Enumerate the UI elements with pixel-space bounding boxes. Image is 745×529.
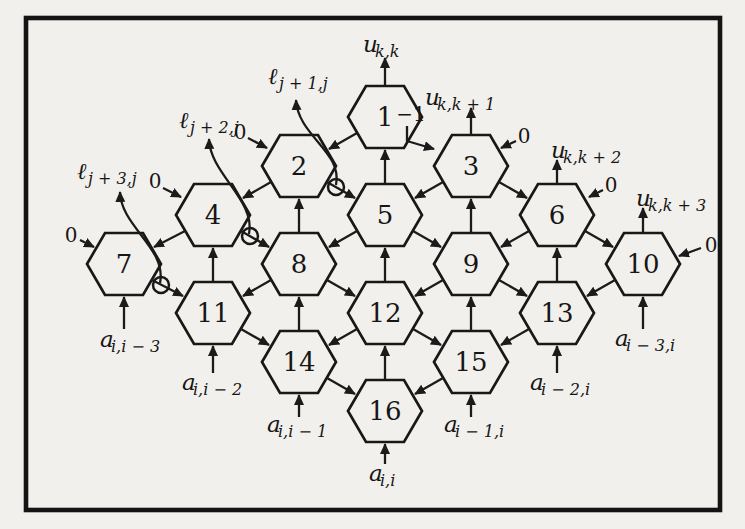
arrow-12-to-15 bbox=[413, 329, 441, 345]
arrow-14-to-16 bbox=[327, 378, 355, 394]
label-a-i2i: ai − 2,i bbox=[530, 369, 590, 399]
label-u-kk3-sub: k,k + 3 bbox=[648, 196, 706, 215]
arrow-13-to-15 bbox=[501, 329, 529, 345]
hex-cell-13: 13 bbox=[520, 282, 594, 344]
label-a-i3i-sub: i − 3,i bbox=[626, 336, 675, 355]
hex-cell-14-number: 14 bbox=[282, 347, 315, 377]
arrow-4-to-7 bbox=[154, 231, 185, 247]
scanned-figure-page: 1 2 3 4 5 6 7 8 9 10 11 12 13 14 15 16 bbox=[0, 0, 745, 529]
label-a-i2i-sub: i − 2,i bbox=[541, 380, 590, 399]
hex-cell-7: 7 bbox=[87, 233, 161, 295]
hex-cell-8: 8 bbox=[262, 233, 336, 295]
label-zero-into-6: 0 bbox=[605, 173, 618, 197]
label-a-ii2: ai,i − 2 bbox=[182, 369, 242, 399]
hex-cell-9-number: 9 bbox=[463, 249, 480, 279]
hex-cell-3: 3 bbox=[434, 135, 508, 197]
label-u-kk1: uk,k + 1 bbox=[425, 84, 495, 114]
label-a-ii-sub: i,i bbox=[380, 471, 395, 490]
hex-cell-15-number: 15 bbox=[454, 347, 487, 377]
arrow-6-to-9 bbox=[501, 231, 529, 247]
hex-cell-6: 6 bbox=[520, 184, 594, 246]
hex-cell-13-number: 13 bbox=[540, 298, 573, 328]
label-zero-into-4: 0 bbox=[149, 169, 162, 193]
arrow-8-to-11 bbox=[243, 280, 271, 296]
hex-cell-10-number: 10 bbox=[626, 249, 659, 279]
hex-cell-5: 5 bbox=[348, 184, 422, 246]
arrow-3-to-5 bbox=[415, 182, 443, 198]
arrow-zero-into-6 bbox=[589, 190, 603, 197]
label-l-j1-base: ℓ bbox=[268, 63, 278, 89]
label-zero-into-10: 0 bbox=[705, 233, 718, 257]
hex-cell-10: 10 bbox=[606, 233, 680, 295]
hex-cell-11-number: 11 bbox=[196, 298, 229, 328]
label-l-j2-sub: j + 2,j bbox=[187, 118, 239, 137]
hex-cell-11: 11 bbox=[176, 282, 250, 344]
label-u-kk-sub: k,k bbox=[375, 42, 399, 61]
hex-cell-9: 9 bbox=[434, 233, 508, 295]
arrow-6-to-10 bbox=[585, 231, 613, 247]
arrow-11-to-14 bbox=[241, 329, 269, 345]
label-a-ii1-sub: i,i − 1 bbox=[278, 422, 327, 441]
arrow-8-to-12 bbox=[327, 280, 355, 296]
label-a-ii3-sub: i,i − 3 bbox=[111, 337, 160, 356]
label-l-j1-sub: j + 1,j bbox=[276, 74, 328, 93]
hex-cell-12: 12 bbox=[348, 282, 422, 344]
label-l-j3-base: ℓ bbox=[77, 158, 87, 184]
label-u-kk3: uk,k + 3 bbox=[636, 185, 706, 215]
hex-cell-8-number: 8 bbox=[291, 249, 308, 279]
label-zero-into-7: 0 bbox=[65, 223, 78, 247]
arrow-5-to-8 bbox=[329, 231, 357, 247]
systolic-array-diagram: 1 2 3 4 5 6 7 8 9 10 11 12 13 14 15 16 bbox=[0, 0, 745, 529]
arrow-12-to-14 bbox=[329, 329, 357, 345]
label-u-kk: uk,k bbox=[363, 31, 399, 61]
arrow-5-to-9 bbox=[413, 231, 441, 247]
arrow-9-to-13 bbox=[499, 280, 527, 296]
hex-cell-3-number: 3 bbox=[463, 151, 480, 181]
label-a-i1i: ai − 1,i bbox=[444, 411, 504, 441]
arrow-9-to-12 bbox=[415, 280, 443, 296]
label-zero-into-2: 0 bbox=[234, 120, 247, 144]
hex-cell-4: 4 bbox=[176, 184, 250, 246]
label-l-j3-sub: j + 3,j bbox=[85, 169, 137, 188]
hex-cell-16-number: 16 bbox=[368, 396, 401, 426]
label-a-i3i: ai − 3,i bbox=[615, 325, 675, 355]
label-a-ii: ai,i bbox=[369, 460, 395, 490]
hex-cell-7-number: 7 bbox=[116, 249, 133, 279]
hex-cell-5-number: 5 bbox=[377, 200, 394, 230]
hex-cell-14: 14 bbox=[262, 331, 336, 393]
label-l-j3: ℓj + 3,j bbox=[77, 158, 137, 188]
label-a-ii3: ai,i − 3 bbox=[100, 326, 160, 356]
arrow-zero-into-7 bbox=[80, 240, 94, 247]
arrow-zero-into-4 bbox=[163, 188, 181, 197]
label-minus-one: −1 bbox=[396, 102, 425, 126]
arrow-zero-into-3 bbox=[501, 141, 516, 148]
hex-cell-2: 2 bbox=[262, 135, 336, 197]
arrow-4-to-8 bbox=[241, 231, 269, 247]
label-l-j2: ℓj + 2,j bbox=[179, 107, 239, 137]
arrow-15-to-16 bbox=[415, 378, 443, 394]
hex-cell-15: 15 bbox=[434, 331, 508, 393]
arrow-2-to-4 bbox=[243, 182, 271, 198]
label-l-j2-base: ℓ bbox=[179, 107, 189, 133]
arrow-zero-into-10 bbox=[679, 248, 701, 256]
arrow-2-to-5 bbox=[327, 182, 355, 198]
hex-cell-2-number: 2 bbox=[291, 151, 308, 181]
hex-cell-4-number: 4 bbox=[205, 200, 222, 230]
hex-cells: 1 2 3 4 5 6 7 8 9 10 11 12 13 14 15 16 bbox=[87, 86, 680, 442]
label-a-ii2-sub: i,i − 2 bbox=[193, 380, 242, 399]
label-u-kk1-sub: k,k + 1 bbox=[437, 95, 495, 114]
hex-cell-1-number: 1 bbox=[377, 102, 394, 132]
arrow-10-to-13 bbox=[587, 280, 615, 296]
label-a-ii1: ai,i − 1 bbox=[267, 411, 327, 441]
hex-cell-12-number: 12 bbox=[368, 298, 401, 328]
label-u-kk2-sub: k,k + 2 bbox=[563, 148, 621, 167]
label-u-kk2: uk,k + 2 bbox=[551, 137, 621, 167]
arrow-zero-into-2 bbox=[248, 138, 267, 148]
hex-cell-6-number: 6 bbox=[549, 200, 566, 230]
label-a-i1i-sub: i − 1,i bbox=[455, 422, 504, 441]
hex-cell-16: 16 bbox=[348, 380, 422, 442]
arrow-3-to-6 bbox=[499, 182, 527, 198]
label-zero-into-3: 0 bbox=[518, 124, 531, 148]
label-l-j1: ℓj + 1,j bbox=[268, 63, 328, 93]
arrow-1-to-2 bbox=[329, 133, 357, 149]
